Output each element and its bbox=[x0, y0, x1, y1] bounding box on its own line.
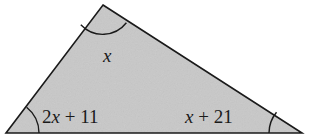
angle-label-bottom-right: x + 21 bbox=[185, 107, 233, 126]
angle-label-bottom-left: 2x + 11 bbox=[42, 107, 98, 126]
triangle-figure: x 2x + 11 x + 21 bbox=[0, 0, 309, 140]
angle-label-bottom-left-text: 2x + 11 bbox=[42, 106, 98, 127]
angle-label-bottom-right-text: x + 21 bbox=[185, 106, 233, 127]
angle-label-apex: x bbox=[103, 46, 111, 65]
